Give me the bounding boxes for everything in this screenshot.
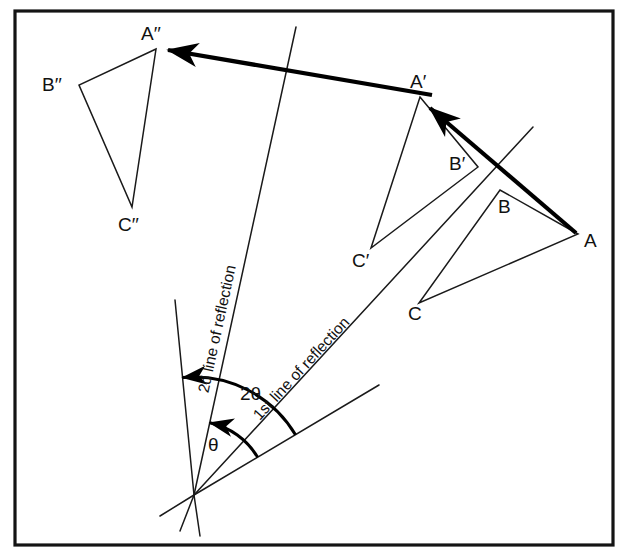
second-line-of-reflection-label: 2d line of reflection xyxy=(194,263,238,394)
first-line-of-reflection-label: 1st line of reflection xyxy=(249,313,352,423)
second-line-extension xyxy=(180,495,194,531)
two-theta-label: 2θ xyxy=(240,383,261,404)
figure-border xyxy=(15,11,613,545)
second-line-of-reflection xyxy=(194,27,296,495)
steep-left-ray-extension xyxy=(194,495,200,536)
vertex-label-A-prime: A′ xyxy=(410,71,427,92)
steep-left-ray xyxy=(175,300,194,495)
figure-canvas: A B C A′ B′ C′ A′′ B′′ C′′ 1st line of r… xyxy=(0,0,625,557)
second-image-triangle xyxy=(79,49,156,207)
reflection-composition-figure: A B C A′ B′ C′ A′′ B′′ C′′ 1st line of r… xyxy=(0,0,625,557)
vertex-label-A: A xyxy=(584,230,597,251)
vertex-label-B-prime: B′ xyxy=(449,153,466,174)
vertex-label-C-double-prime: C′′ xyxy=(118,214,139,235)
arrow-A-prime-to-A-double-prime xyxy=(168,50,432,95)
theta-label: θ xyxy=(208,434,219,455)
vertex-label-B-double-prime: B′′ xyxy=(42,74,62,95)
vertex-label-C-prime: C′ xyxy=(352,250,370,271)
lower-right-ray xyxy=(194,385,379,495)
vertex-label-B: B xyxy=(498,196,511,217)
vertex-label-C: C xyxy=(408,303,422,324)
lower-right-ray-extension xyxy=(160,495,194,516)
vertex-label-A-double-prime: A′′ xyxy=(141,23,161,44)
